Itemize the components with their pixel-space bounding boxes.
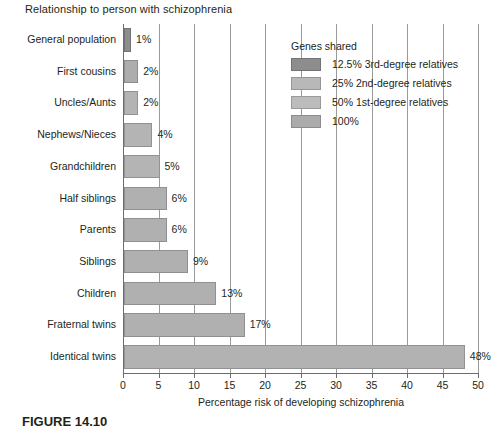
- bar-category-label: Half siblings: [0, 183, 116, 215]
- x-tick-label: 25: [295, 379, 307, 391]
- bar-category-label: Uncles/Aunts: [0, 87, 116, 119]
- x-tick: [301, 373, 302, 378]
- bar-category-label: Siblings: [0, 246, 116, 278]
- legend-swatch: [291, 77, 321, 90]
- legend-label: 12.5% 3rd-degree relatives: [332, 58, 458, 70]
- x-tick: [372, 373, 373, 378]
- bar-category-label: Identical twins: [0, 341, 116, 373]
- bar-category-label: First cousins: [0, 56, 116, 88]
- bar-value-label: 4%: [157, 119, 172, 151]
- x-tick: [123, 373, 124, 378]
- bar: [124, 250, 188, 274]
- x-tick: [230, 373, 231, 378]
- x-tick-label: 30: [330, 379, 342, 391]
- x-tick: [194, 373, 195, 378]
- bar: [124, 91, 138, 115]
- legend-item: 100%: [291, 113, 458, 129]
- x-tick-label: 35: [366, 379, 378, 391]
- x-tick: [478, 373, 479, 378]
- bar-value-label: 9%: [193, 246, 208, 278]
- bar-row: Half siblings6%: [0, 183, 498, 215]
- x-tick-label: 50: [472, 379, 484, 391]
- legend-label: 50% 1st-degree relatives: [332, 96, 448, 108]
- legend-label: 25% 2nd-degree relatives: [332, 77, 452, 89]
- bar-row: Identical twins48%: [0, 341, 498, 373]
- x-tick: [159, 373, 160, 378]
- bar-value-label: 6%: [172, 183, 187, 215]
- bar-row: Children13%: [0, 278, 498, 310]
- bar-category-label: General population: [0, 24, 116, 56]
- bar-category-label: Fraternal twins: [0, 309, 116, 341]
- bar-value-label: 48%: [470, 341, 491, 373]
- x-tick-label: 15: [224, 379, 236, 391]
- x-tick: [407, 373, 408, 378]
- legend-item: 12.5% 3rd-degree relatives: [291, 56, 458, 72]
- bar: [124, 155, 160, 179]
- bar-value-label: 6%: [172, 214, 187, 246]
- bar: [124, 123, 152, 147]
- legend-label: 100%: [332, 115, 359, 127]
- legend-swatch: [291, 58, 321, 71]
- x-tick-label: 45: [437, 379, 449, 391]
- bar-value-label: 13%: [221, 278, 242, 310]
- legend-items: 12.5% 3rd-degree relatives25% 2nd-degree…: [291, 56, 458, 129]
- bar-category-label: Parents: [0, 214, 116, 246]
- bar-value-label: 2%: [143, 87, 158, 119]
- bar-category-label: Children: [0, 278, 116, 310]
- bar-row: Fraternal twins17%: [0, 309, 498, 341]
- chart-title: Relationship to person with schizophreni…: [25, 3, 232, 15]
- bar: [124, 313, 245, 337]
- x-tick-label: 5: [156, 379, 162, 391]
- x-tick: [443, 373, 444, 378]
- bar: [124, 187, 167, 211]
- x-axis-title: Percentage risk of developing schizophre…: [123, 396, 479, 408]
- x-tick-label: 0: [120, 379, 126, 391]
- bar: [124, 60, 138, 84]
- x-tick: [265, 373, 266, 378]
- x-tick-label: 20: [259, 379, 271, 391]
- legend-swatch: [291, 96, 321, 109]
- bar-value-label: 1%: [136, 24, 151, 56]
- legend-item: 50% 1st-degree relatives: [291, 94, 458, 110]
- bar-value-label: 2%: [143, 56, 158, 88]
- x-tick-label: 10: [188, 379, 200, 391]
- bar: [124, 345, 465, 369]
- bar: [124, 282, 216, 306]
- x-tick: [336, 373, 337, 378]
- legend-item: 25% 2nd-degree relatives: [291, 75, 458, 91]
- bar-row: Siblings9%: [0, 246, 498, 278]
- legend: Genes shared 12.5% 3rd-degree relatives2…: [291, 40, 458, 132]
- schizophrenia-risk-bar-chart: Relationship to person with schizophreni…: [0, 0, 498, 428]
- legend-swatch: [291, 115, 321, 128]
- bar: [124, 218, 167, 242]
- bar-value-label: 5%: [165, 151, 180, 183]
- bar-category-label: Nephews/Nieces: [0, 119, 116, 151]
- legend-title: Genes shared: [291, 40, 458, 52]
- bar: [124, 28, 131, 52]
- bar-category-label: Grandchildren: [0, 151, 116, 183]
- x-tick-label: 40: [401, 379, 413, 391]
- bar-row: Parents6%: [0, 214, 498, 246]
- figure-caption: FIGURE 14.10: [22, 414, 107, 428]
- bar-value-label: 17%: [250, 309, 271, 341]
- bar-row: Grandchildren5%: [0, 151, 498, 183]
